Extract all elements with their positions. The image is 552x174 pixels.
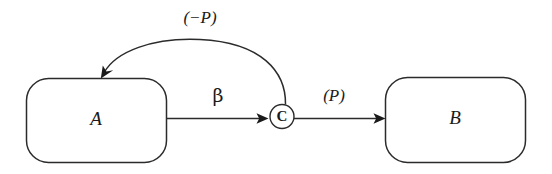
diagram-canvas: A B β C (P) (−P)	[0, 0, 552, 174]
node-b-label: B	[449, 107, 461, 128]
edge-c-to-a-label: (−P)	[183, 8, 217, 27]
edge-a-to-c-label: β	[213, 84, 224, 106]
diagram-svg: A B β C (P) (−P)	[0, 0, 552, 174]
edge-c-to-b-label: (P)	[323, 86, 345, 105]
node-a-label: A	[88, 108, 102, 129]
node-c-label: C	[277, 108, 288, 124]
